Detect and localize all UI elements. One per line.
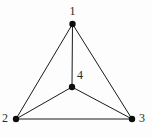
graph-canvas [0,0,152,138]
graph-vertex-label-4: 4 [77,69,83,81]
vertices-layer [13,21,135,122]
graph-vertex-2 [13,116,19,122]
edges-layer [16,24,132,119]
graph-vertex-label-2: 2 [2,112,8,124]
graph-edge-2-4 [16,87,72,119]
graph-edge-1-2 [16,24,73,119]
graph-vertex-label-3: 3 [139,112,145,124]
graph-vertex-1 [69,21,75,27]
graph-figure: 1234 [0,0,152,138]
graph-vertex-label-1: 1 [70,5,76,17]
graph-vertex-4 [69,84,75,90]
graph-vertex-3 [129,116,135,122]
graph-edge-3-4 [72,87,132,119]
graph-edge-1-4 [72,24,73,87]
